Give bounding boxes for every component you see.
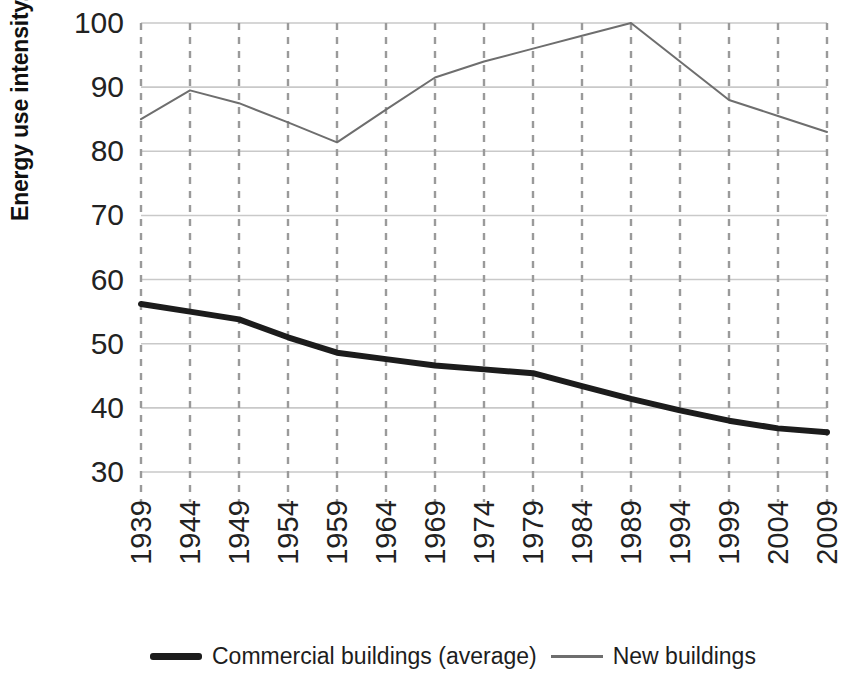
plot-area (141, 23, 827, 472)
chart-canvas (141, 23, 827, 472)
x-axis-tick-label: 1999 (715, 500, 744, 565)
y-axis-tick-labels: 30405060708090100 (40, 0, 132, 520)
y-axis-tick-label: 30 (91, 457, 124, 487)
x-axis-tick-label: 1959 (323, 500, 352, 565)
x-axis-tick-label: 1964 (372, 500, 401, 565)
x-axis-tick-label: 1989 (617, 500, 646, 565)
x-axis-tick-label: 1949 (225, 500, 254, 565)
x-axis-tick-label: 1984 (568, 500, 597, 565)
x-axis-tick-label: 2004 (764, 500, 793, 565)
chart-legend: Commercial buildings (average)New buildi… (150, 636, 750, 673)
x-axis-tick-label: 1974 (470, 500, 499, 565)
x-axis-tick-label: 1939 (127, 500, 156, 565)
y-axis-title: Energy use intensity, KBtu/square foot (0, 0, 40, 560)
y-axis-tick-label: 60 (91, 265, 124, 295)
x-axis-tick-label: 1954 (274, 500, 303, 565)
vertical-gridlines (141, 23, 827, 502)
x-axis-tick-label: 1969 (421, 500, 450, 565)
x-axis-tick-label: 1944 (176, 500, 205, 565)
x-axis-tick-label: 1994 (666, 500, 695, 565)
x-axis-tick-labels: 1939194419491954195919641969197419791984… (141, 478, 827, 608)
legend-label: Commercial buildings (average) (212, 643, 537, 670)
legend-entry[interactable]: New buildings (551, 643, 756, 670)
legend-entry[interactable]: Commercial buildings (average) (150, 643, 537, 670)
x-axis-tick-label: 2009 (813, 500, 842, 565)
legend-label: New buildings (613, 643, 756, 670)
x-axis-tick-label: 1979 (519, 500, 548, 565)
y-axis-tick-label: 100 (74, 8, 124, 38)
y-axis-tick-label: 90 (91, 72, 124, 102)
legend-swatch-thin-icon (551, 655, 603, 658)
legend-swatch-thick-icon (150, 653, 202, 660)
y-axis-tick-label: 70 (91, 200, 124, 230)
y-axis-title-text: Energy use intensity, KBtu/square foot (7, 0, 34, 221)
y-axis-tick-label: 40 (91, 393, 124, 423)
y-axis-tick-label: 80 (91, 136, 124, 166)
y-axis-tick-label: 50 (91, 329, 124, 359)
